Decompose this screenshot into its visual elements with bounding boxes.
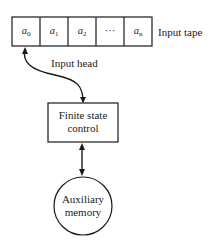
- tape-cell-subscript: 0: [27, 30, 31, 38]
- input-tape-label: Input tape: [158, 26, 202, 38]
- tape-cell-ellipsis: ···: [96, 25, 124, 37]
- finite-state-control-label: Finite state control: [48, 109, 118, 135]
- tape-cell-subscript: 1: [55, 30, 59, 38]
- control-memory-arrow: [79, 143, 85, 176]
- control-line-2: control: [48, 122, 118, 135]
- tape-cell-subscript: n: [139, 30, 143, 38]
- input-head-label: Input head: [51, 57, 98, 69]
- memory-line-2: memory: [54, 206, 112, 219]
- control-line-1: Finite state: [48, 109, 118, 122]
- tape-cell-subscript: 2: [83, 30, 87, 38]
- input-head-arrow-tip: [22, 47, 28, 54]
- tape-cell-0: a0: [12, 25, 40, 40]
- tape-cell-n: an: [124, 25, 152, 40]
- tape-cell-2: a2: [68, 25, 96, 40]
- tape-cell-symbol: ···: [105, 25, 116, 36]
- memory-line-1: Auxiliary: [54, 193, 112, 206]
- auxiliary-memory-label: Auxiliary memory: [54, 193, 112, 219]
- tape-cell-1: a1: [40, 25, 68, 40]
